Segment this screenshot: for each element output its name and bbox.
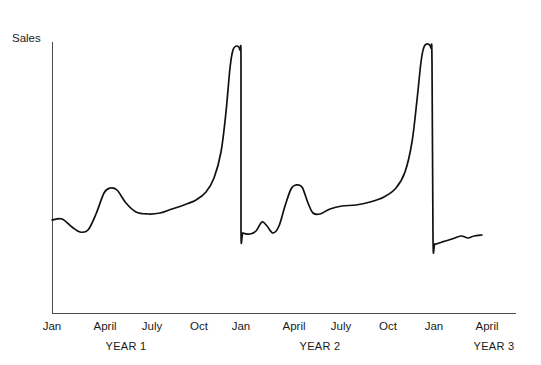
x-tick-label-3: Oct — [190, 320, 209, 332]
period-label-1: YEAR 2 — [300, 340, 341, 352]
sales-chart: Sales JanAprilJulyOctJanAprilJulyOctJanA… — [0, 0, 541, 365]
x-tick-label-6: July — [331, 320, 352, 332]
sales-line-series — [52, 44, 482, 253]
x-tick-label-4: Jan — [232, 320, 251, 332]
x-tick-label-0: Jan — [43, 320, 62, 332]
x-tick-label-8: Jan — [425, 320, 444, 332]
x-tick-label-5: April — [282, 320, 305, 332]
period-label-2: YEAR 3 — [474, 340, 515, 352]
x-tick-label-1: April — [93, 320, 116, 332]
x-tick-label-2: July — [142, 320, 163, 332]
x-tick-label-9: April — [475, 320, 498, 332]
x-axis-tick-labels: JanAprilJulyOctJanAprilJulyOctJanApril — [43, 320, 499, 332]
x-tick-label-7: Oct — [379, 320, 398, 332]
period-label-0: YEAR 1 — [106, 340, 147, 352]
x-axis-period-labels: YEAR 1YEAR 2YEAR 3 — [106, 340, 515, 352]
y-axis-label: Sales — [12, 32, 41, 44]
chart-canvas: Sales JanAprilJulyOctJanAprilJulyOctJanA… — [0, 0, 541, 365]
